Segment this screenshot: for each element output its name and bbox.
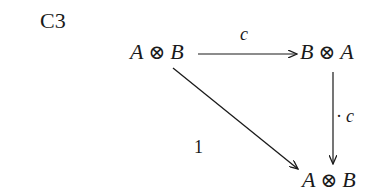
- arrow-label-horizontal: c: [240, 24, 248, 45]
- label-text: c: [346, 106, 354, 126]
- arrow-diagonal: [173, 68, 298, 169]
- arrows-layer: [0, 0, 380, 194]
- label-dot: ·: [336, 106, 342, 126]
- arrow-label-diagonal: 1: [194, 137, 203, 158]
- arrow-label-vertical: ·c: [336, 106, 354, 127]
